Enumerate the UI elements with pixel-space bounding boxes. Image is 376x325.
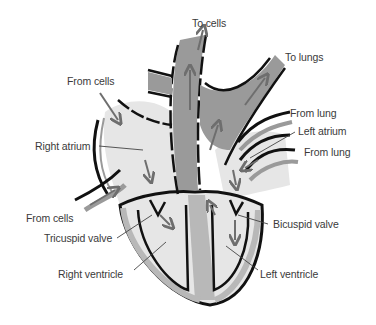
label-right-ventricle: Right ventricle <box>58 268 123 280</box>
label-from-lung-bottom: From lung <box>304 146 350 158</box>
label-left-ventricle: Left ventricle <box>260 268 318 280</box>
heart-diagram: To cells To lungs From cells Right atriu… <box>0 0 376 325</box>
label-right-atrium: Right atrium <box>35 140 90 152</box>
label-from-cells-top: From cells <box>67 75 114 87</box>
heart-illustration <box>0 0 376 325</box>
label-bicuspid-valve: Bicuspid valve <box>273 218 339 230</box>
label-to-cells: To cells <box>192 17 226 29</box>
label-from-cells-bottom: From cells <box>26 212 73 224</box>
label-from-lung-top: From lung <box>290 107 336 119</box>
label-left-atrium: Left atrium <box>298 125 347 137</box>
label-to-lungs: To lungs <box>285 51 323 63</box>
label-tricuspid-valve: Tricuspid valve <box>44 232 112 244</box>
